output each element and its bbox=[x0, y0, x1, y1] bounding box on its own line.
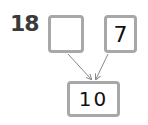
arrow-left-to-whole bbox=[68, 54, 91, 79]
connector-arrows bbox=[0, 0, 148, 125]
arrow-right-to-whole bbox=[96, 54, 108, 79]
